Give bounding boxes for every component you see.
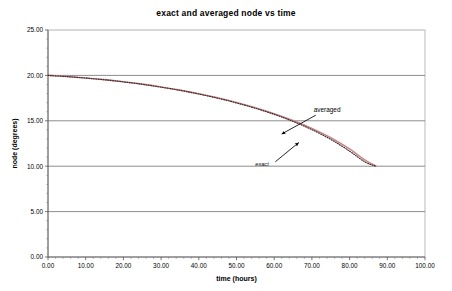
x-tick-label: 0.00: [42, 262, 55, 269]
x-tick-label: 100.00: [415, 262, 435, 269]
annotation-label-averaged: averaged: [314, 106, 341, 114]
chart-container: exact and averaged node vs time 0.005.00…: [0, 0, 452, 291]
x-tick-label: 40.00: [191, 262, 207, 269]
y-axis-ticks: 0.005.0010.0015.0020.0025.00: [27, 26, 48, 260]
x-tick-label: 20.00: [115, 262, 131, 269]
x-tick-label: 50.00: [229, 262, 245, 269]
x-tick-label: 60.00: [266, 262, 282, 269]
y-tick-label: 5.00: [31, 208, 44, 215]
y-tick-label: 0.00: [31, 253, 44, 260]
y-tick-label: 20.00: [27, 72, 43, 79]
x-tick-label: 70.00: [304, 262, 320, 269]
y-axis-title: node (degrees): [11, 118, 19, 168]
x-tick-label: 90.00: [379, 262, 395, 269]
y-tick-label: 10.00: [27, 163, 43, 170]
annotation-label-exact: exact: [255, 161, 269, 167]
x-tick-label: 30.00: [153, 262, 169, 269]
y-tick-label: 15.00: [27, 117, 43, 124]
chart-plot-svg: 0.005.0010.0015.0020.0025.00 0.0010.0020…: [0, 0, 452, 291]
y-tick-label: 25.00: [27, 26, 43, 33]
plot-area: [48, 30, 425, 257]
x-tick-label: 80.00: [342, 262, 358, 269]
x-tick-label: 10.00: [78, 262, 94, 269]
x-axis-title: time (hours): [216, 275, 256, 283]
